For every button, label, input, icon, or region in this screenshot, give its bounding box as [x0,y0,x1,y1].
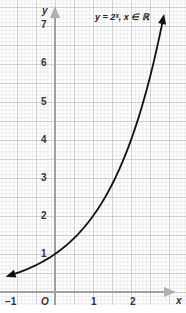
chart-title: y = 2ˣ, x ∈ ℝ [95,12,149,22]
x-tick-neg1: −1 [5,297,16,307]
origin-label: O [41,297,49,307]
y-tick-2: 2 [41,211,47,221]
x-tick-2: 2 [130,297,136,307]
y-tick-5: 5 [41,97,47,107]
y-tick-7: 7 [41,20,47,30]
y-tick-6: 6 [41,58,47,68]
x-tick-1: 1 [91,297,97,307]
y-axis-label: y [42,6,48,16]
chart-plot [0,0,186,313]
y-tick-4: 4 [41,135,47,145]
y-tick-3: 3 [41,173,47,183]
y-tick-1: 1 [41,249,47,259]
x-axis-label: x [176,296,182,306]
